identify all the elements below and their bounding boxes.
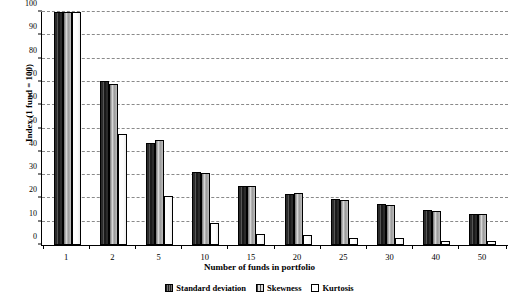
bar [285,194,294,245]
bar [100,81,109,245]
bar-group [183,12,229,245]
legend-label: Kurtosis [322,283,353,293]
x-axis-tick-label: 20 [274,245,320,263]
bar [377,204,386,245]
bar [109,84,118,245]
bar [192,172,201,245]
legend-swatch-icon [311,284,319,292]
y-axis-tick-label: 50 [3,115,42,124]
bar-chart-figure: Index (1 fund = 100) 0102030405060708090… [0,0,519,307]
bar [294,193,303,245]
bar-group [275,12,321,245]
legend-label: Skewness [267,283,301,293]
x-axis-tick-label: 40 [413,245,459,263]
bar [146,143,155,245]
x-axis-tick-label: 30 [366,245,412,263]
legend-item: Skewness [256,283,301,293]
bar [340,200,349,245]
y-axis-tick-label: 40 [3,138,42,147]
y-axis-tick-label: 0 [3,232,42,241]
legend-swatch-icon [256,284,264,292]
bar [478,214,487,245]
y-axis-tick-label: 80 [3,45,42,54]
bar [469,214,478,245]
x-axis-tick-label: 25 [320,245,366,263]
y-axis-tick-label: 20 [3,185,42,194]
bar [395,238,404,245]
x-axis-title: Number of funds in portfolio [0,262,519,272]
bar-group [414,12,460,245]
bar-group [90,12,136,245]
bar [256,234,265,245]
bar-group [44,12,90,245]
y-axis-tick-label: 30 [3,162,42,171]
bar [247,186,256,245]
x-axis-ticks: 12510152025304050 [41,245,507,263]
legend-item: Kurtosis [311,283,353,293]
bar [432,211,441,245]
bar-group [229,12,275,245]
bar [349,238,358,245]
bar [63,12,72,245]
y-axis-tick-label: 70 [3,68,42,77]
bar [210,223,219,245]
legend-item: Standard deviation [165,283,246,293]
x-axis-tick-label: 1 [43,245,89,263]
bar [164,196,173,245]
bar [118,134,127,245]
bar [238,186,247,245]
bar-groups [42,12,508,245]
x-axis-tick-label: 5 [135,245,181,263]
bar-group [321,12,367,245]
bar [303,235,312,245]
x-axis-tick-label: 2 [89,245,135,263]
y-axis-tick-label: 60 [3,92,42,101]
bar [54,12,63,245]
x-axis-tick-label: 15 [228,245,274,263]
legend-label: Standard deviation [176,283,246,293]
bar [386,205,395,245]
y-axis-title: Index (1 fund = 100) [24,28,34,178]
x-axis-end-tick [506,245,507,249]
bar [331,199,340,245]
bar [201,173,210,245]
y-axis-tick-label: 100 [3,0,42,8]
y-axis-tick-label: 90 [3,22,42,31]
bar-group [460,12,506,245]
bar-group [136,12,182,245]
bar [423,210,432,245]
y-axis-tick-label: 10 [3,208,42,217]
bar-group [367,12,413,245]
x-axis-tick-label: 10 [182,245,228,263]
x-axis-tick-label: 50 [459,245,505,263]
plot-area: 0102030405060708090100 [41,12,508,246]
chart-legend: Standard deviationSkewnessKurtosis [0,283,519,293]
bar [155,140,164,245]
bar [72,12,81,245]
legend-swatch-icon [165,284,173,292]
